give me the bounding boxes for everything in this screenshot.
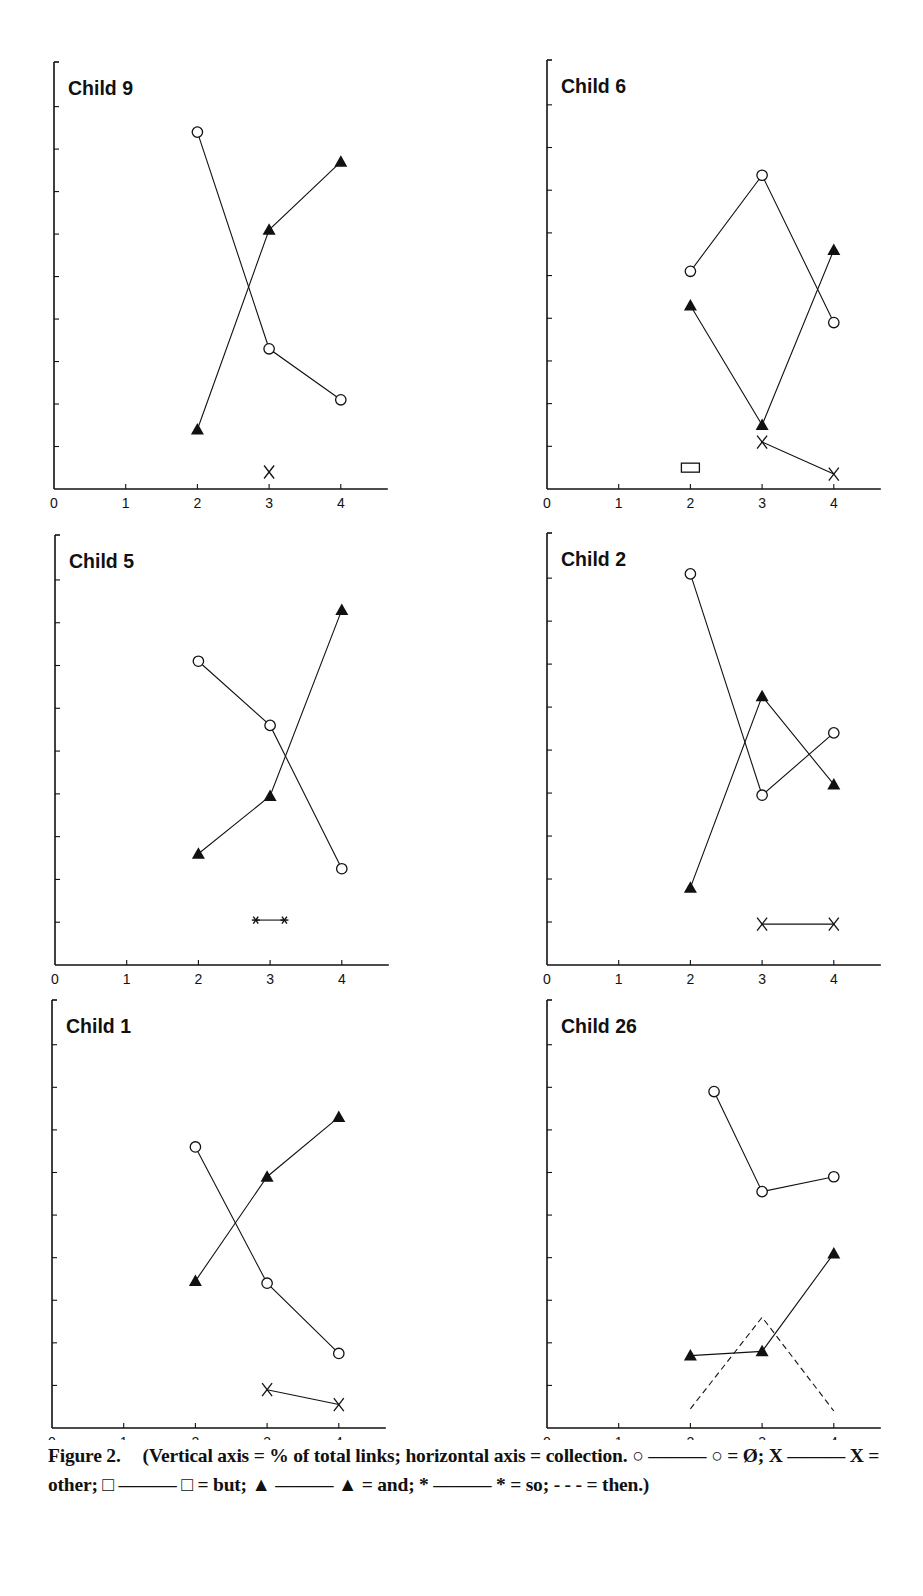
series-other (262, 1383, 344, 1411)
figure-caption: Figure 2.(Vertical axis = % of total lin… (48, 1441, 898, 1499)
circle-marker (757, 790, 767, 800)
figure-2-small-multiples: 01234Child 901234Child 601234Child 50123… (0, 0, 923, 1440)
series-zero (709, 1086, 839, 1196)
circle-marker (334, 1348, 344, 1358)
circle-marker (685, 569, 695, 579)
circle-marker (757, 1186, 767, 1196)
x-marker (757, 436, 767, 449)
circle-marker (265, 720, 275, 730)
circle-marker (829, 1172, 839, 1182)
x-tick-label: 4 (337, 495, 345, 511)
series-zero (193, 656, 347, 874)
axes (547, 60, 881, 489)
x-tick-label: 2 (687, 971, 695, 987)
axes (55, 535, 389, 965)
x-tick-label: 4 (335, 1434, 343, 1440)
x-marker (262, 1383, 272, 1396)
x-tick-label: 0 (543, 1434, 551, 1440)
series-other (757, 436, 839, 481)
circle-marker (336, 395, 346, 405)
triangle-marker (756, 690, 769, 702)
triangle-marker (261, 1170, 274, 1182)
triangle-marker (684, 881, 697, 893)
series-so (252, 917, 289, 924)
x-tick-label: 0 (543, 971, 551, 987)
panel-title: Child 2 (561, 548, 626, 570)
series-then (690, 1317, 833, 1411)
figure-label: Figure 2. (48, 1445, 121, 1466)
circle-marker (264, 344, 274, 354)
triangle-marker (332, 1111, 345, 1123)
x-tick-label: 3 (758, 495, 766, 511)
x-tick-label: 1 (615, 1434, 623, 1440)
x-tick-label: 1 (122, 495, 130, 511)
square-marker (681, 463, 699, 472)
series-other (757, 918, 839, 931)
panel-child-6: 01234Child 6 (543, 60, 881, 511)
x-tick-label: 3 (265, 495, 273, 511)
triangle-marker (192, 847, 205, 859)
axes (547, 1000, 881, 1428)
triangle-marker (827, 1247, 840, 1259)
panel-title: Child 26 (561, 1015, 637, 1037)
series-zero (192, 127, 346, 405)
x-tick-label: 0 (50, 495, 58, 511)
x-tick-label: 1 (120, 1434, 128, 1440)
series-zero (685, 569, 839, 801)
circle-marker (829, 317, 839, 327)
series-and (189, 1111, 345, 1286)
triangle-marker (334, 155, 347, 167)
circle-marker (829, 728, 839, 738)
series-but (681, 463, 699, 472)
x-tick-label: 0 (51, 971, 59, 987)
triangle-marker (827, 243, 840, 255)
x-tick-label: 2 (687, 1434, 695, 1440)
circle-marker (262, 1278, 272, 1288)
circle-marker (192, 127, 202, 137)
triangle-marker (756, 418, 769, 430)
circle-marker (190, 1142, 200, 1152)
x-tick-label: 1 (123, 971, 131, 987)
x-tick-label: 3 (266, 971, 274, 987)
triangle-marker (191, 423, 204, 435)
panel-title: Child 1 (66, 1015, 131, 1037)
x-tick-label: 0 (543, 495, 551, 511)
panel-child-2: 01234Child 2 (543, 533, 881, 987)
series-and (684, 1247, 840, 1361)
circle-marker (709, 1086, 719, 1096)
x-tick-label: 4 (830, 971, 838, 987)
panel-title: Child 5 (69, 550, 134, 572)
triangle-marker (684, 299, 697, 311)
series-zero (685, 170, 839, 328)
figure-caption-text: (Vertical axis = % of total links; horiz… (48, 1445, 879, 1495)
x-tick-label: 4 (830, 1434, 838, 1440)
circle-marker (757, 170, 767, 180)
x-tick-label: 4 (338, 971, 346, 987)
x-marker (264, 466, 274, 479)
axes (547, 533, 881, 965)
series-and (191, 155, 347, 434)
x-tick-label: 3 (263, 1434, 271, 1440)
triangle-marker (189, 1275, 202, 1287)
triangle-marker (756, 1345, 769, 1357)
circle-marker (337, 864, 347, 874)
panel-title: Child 9 (68, 77, 133, 99)
x-tick-label: 0 (48, 1434, 56, 1440)
x-tick-label: 2 (687, 495, 695, 511)
circle-marker (193, 656, 203, 666)
panel-child-5: 01234Child 5 (51, 535, 389, 987)
x-tick-label: 2 (195, 971, 203, 987)
triangle-marker (335, 603, 348, 615)
series-and (684, 243, 840, 430)
x-tick-label: 2 (192, 1434, 200, 1440)
x-tick-label: 3 (758, 1434, 766, 1440)
panel-child-9: 01234Child 9 (50, 62, 388, 511)
x-tick-label: 4 (830, 495, 838, 511)
panel-child-26: 01234Child 26 (543, 1000, 881, 1440)
x-tick-label: 1 (615, 971, 623, 987)
circle-marker (685, 266, 695, 276)
triangle-marker (264, 789, 277, 801)
series-other (264, 466, 274, 479)
x-marker (334, 1398, 344, 1411)
panel-title: Child 6 (561, 75, 626, 97)
